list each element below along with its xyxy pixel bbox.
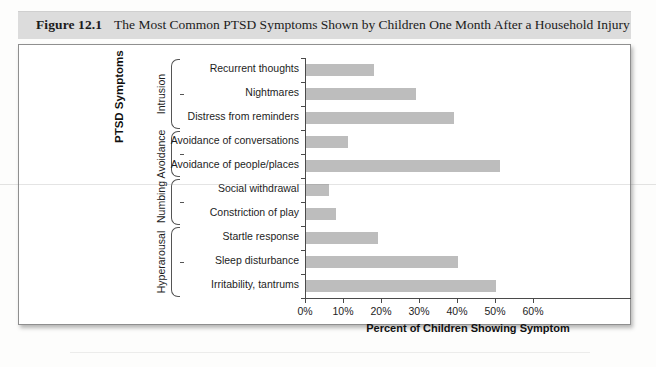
bar-row: Avoidance of people/places (306, 154, 632, 178)
x-axis-tick (457, 298, 458, 303)
bar (306, 112, 454, 124)
category-label: Nightmares (245, 86, 299, 98)
category-label: Irritability, tantrums (211, 278, 299, 290)
bar (306, 64, 374, 76)
bar-row: Startle response (306, 226, 632, 250)
figure-caption-band: Figure 12.1The Most Common PTSD Symptoms… (18, 11, 631, 39)
category-label: Avoidance of people/places (171, 158, 299, 170)
x-axis-tick (495, 298, 496, 303)
x-axis-tick-label: 40% (446, 305, 467, 317)
bar-row: Social withdrawal (306, 178, 632, 202)
category-label: Distress from reminders (188, 110, 299, 122)
y-axis-tick (301, 82, 306, 83)
x-axis-title: Percent of Children Showing Symptom (305, 322, 631, 334)
group-bracket (171, 227, 180, 297)
bar-row: Recurrent thoughts (306, 58, 632, 82)
y-axis-tick (301, 154, 306, 155)
category-label: Social withdrawal (218, 182, 299, 194)
bar (306, 136, 348, 148)
category-label: Constriction of play (210, 206, 299, 218)
group-bracket (171, 179, 180, 225)
x-axis-tick (381, 298, 382, 303)
figure-title: The Most Common PTSD Symptoms Shown by C… (114, 17, 630, 32)
x-axis-tick-label: 0% (297, 305, 312, 317)
x-axis-tick-label: 20% (370, 305, 391, 317)
bar (306, 280, 496, 292)
x-axis-tick-label: 60% (522, 305, 543, 317)
x-axis-tick (343, 298, 344, 303)
group-bracket (171, 59, 180, 129)
figure-frame: PTSD Symptoms IntrusionAvoidanceNumbingH… (18, 44, 631, 325)
bar (306, 256, 458, 268)
y-axis-title: PTSD Symptoms (113, 50, 125, 143)
bar (306, 184, 329, 196)
figure-number: Figure 12.1 (36, 17, 102, 32)
group-label: Numbing (155, 181, 167, 223)
y-axis-tick (301, 178, 306, 179)
bar-row: Irritability, tantrums (306, 274, 632, 298)
bar-row: Constriction of play (306, 202, 632, 226)
group-label: Intrusion (155, 74, 167, 114)
figure-caption: Figure 12.1The Most Common PTSD Symptoms… (36, 17, 630, 33)
y-axis-tick (301, 226, 306, 227)
x-axis-tick (533, 298, 534, 303)
x-axis-line (305, 298, 631, 299)
y-axis-tick (301, 130, 306, 131)
category-label: Recurrent thoughts (210, 62, 299, 74)
bar-row: Nightmares (306, 82, 632, 106)
x-axis-tick-label: 10% (332, 305, 353, 317)
category-label: Startle response (223, 230, 299, 242)
y-axis-tick (301, 202, 306, 203)
bar (306, 208, 336, 220)
bar-row: Avoidance of conversations (306, 130, 632, 154)
y-axis-tick (301, 274, 306, 275)
figure-page: Figure 12.1The Most Common PTSD Symptoms… (0, 0, 656, 367)
bar-row: Sleep disturbance (306, 250, 632, 274)
x-axis-tick-label: 30% (408, 305, 429, 317)
y-axis-tick (301, 106, 306, 107)
x-axis-tick (305, 298, 306, 303)
bar (306, 160, 500, 172)
category-label: Sleep disturbance (215, 254, 299, 266)
bar (306, 88, 416, 100)
bar (306, 232, 378, 244)
plot-area: Recurrent thoughtsNightmaresDistress fro… (305, 58, 631, 298)
category-label: Avoidance of conversations (171, 134, 299, 146)
bar-row: Distress from reminders (306, 106, 632, 130)
y-axis-tick (301, 58, 306, 59)
x-axis-tick (419, 298, 420, 303)
x-axis-tick-label: 50% (484, 305, 505, 317)
scan-artifact-edge (70, 352, 590, 353)
group-label: Hyperarousal (155, 231, 167, 293)
y-axis-tick (301, 250, 306, 251)
group-label: Avoidance (155, 130, 167, 179)
